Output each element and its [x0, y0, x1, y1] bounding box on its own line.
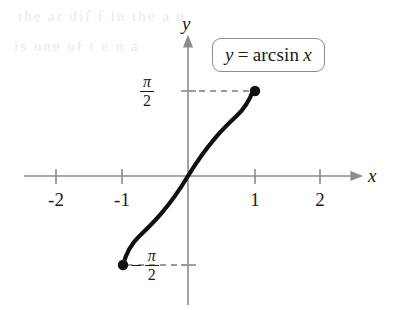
- fraction-denominator-negative: 2: [145, 266, 159, 283]
- y-tick-label-neg-pi-over-2: − π 2: [131, 248, 159, 283]
- x-tick-label-neg1: -1: [108, 190, 136, 209]
- endpoint-dot-upper: [250, 86, 260, 96]
- fraction-stack-negative: π 2: [145, 248, 159, 283]
- equation-argument: x: [303, 44, 312, 66]
- equation-operator: =: [238, 44, 249, 66]
- fraction-numerator-positive: π: [140, 74, 154, 91]
- equation-lhs: y: [225, 44, 234, 66]
- fraction-denominator-positive: 2: [140, 92, 154, 109]
- arcsin-graph-figure: the ar dif f in the a u is one of t e n …: [0, 0, 399, 310]
- y-axis-label: y: [182, 14, 190, 33]
- endpoint-dot-lower: [118, 260, 128, 270]
- x-tick-label-pos2: 2: [311, 190, 329, 209]
- equation-callout-box: y = arcsin x: [212, 38, 325, 72]
- x-axis-label: x: [368, 166, 376, 185]
- y-tick-label-neg-pi-over-2-sign: −: [131, 256, 142, 275]
- plot-canvas: [0, 0, 399, 310]
- fraction-numerator-negative: π: [145, 248, 159, 265]
- fraction-stack-positive: π 2: [140, 74, 154, 109]
- y-tick-label-pi-over-2: π 2: [137, 74, 154, 109]
- x-tick-label-neg2: -2: [42, 190, 70, 209]
- equation-function-name: arcsin: [253, 44, 300, 66]
- x-tick-label-pos1: 1: [246, 190, 264, 209]
